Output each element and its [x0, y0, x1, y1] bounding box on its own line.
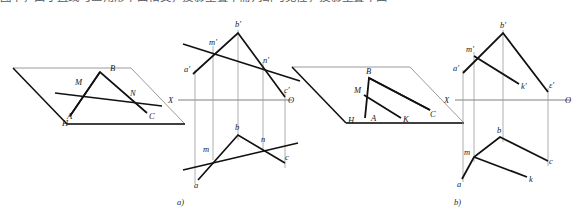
- label-n-prime-a: n': [263, 55, 269, 65]
- label-M-b: M: [353, 85, 362, 95]
- line-mn-lower-a: [183, 143, 298, 170]
- cropped-top-text-strip: 图中，由于直线与三角形平面相交，投影重叠中需判断可见性，投影重叠中面: [0, 0, 578, 9]
- axis-label-O-a: O: [288, 95, 294, 105]
- projection-b: X O a' m' b' k' ε' a: [443, 20, 571, 189]
- triangle-abc-lower-a: [198, 135, 285, 180]
- label-a-lower-b: a: [457, 179, 461, 189]
- label-b-lower-a: b: [235, 122, 239, 132]
- label-a-prime-a: a': [184, 64, 190, 74]
- label-b-lower-b: b: [497, 125, 501, 135]
- label-a-lower-a: a: [194, 180, 198, 190]
- triangle-abc-b: [365, 78, 430, 118]
- label-B-a: B: [110, 63, 115, 73]
- label-b-prime-b: b': [500, 20, 506, 30]
- line-mn-a: [55, 93, 162, 106]
- segment-mk-lower-b: [474, 157, 527, 177]
- axis-label-X-b: X: [443, 95, 450, 105]
- projection-connectors-b: [463, 30, 548, 182]
- projection-connectors-a: [195, 30, 285, 184]
- label-c-prime-b: ε': [549, 80, 554, 90]
- label-C-b: C: [430, 109, 436, 119]
- label-m-prime-b: m': [466, 44, 474, 54]
- label-c-lower-a: c: [285, 152, 289, 162]
- cropped-top-text: 图中，由于直线与三角形平面相交，投影重叠中需判断可见性，投影重叠中面: [0, 0, 388, 2]
- axis-label-X-a: X: [167, 95, 174, 105]
- axis-label-O-b: O: [565, 95, 571, 105]
- pictorial-plane-a: A B C M N H: [13, 63, 185, 128]
- label-n-lower-a: n: [261, 134, 265, 144]
- label-H-a: H: [61, 118, 69, 128]
- label-A-b: A: [370, 113, 377, 123]
- polyline-abc-upper-b: [463, 33, 548, 92]
- label-m-lower-b: m: [464, 147, 470, 157]
- label-c-lower-b: c: [549, 156, 553, 166]
- figure-root: 图中，由于直线与三角形平面相交，投影重叠中需判断可见性，投影重叠中面 A B C…: [0, 0, 578, 218]
- label-N-a: N: [129, 88, 137, 98]
- panel-a: A B C M N H X O: [13, 19, 300, 207]
- segment-mk-b: [364, 95, 401, 118]
- label-k-prime-b: k': [521, 81, 527, 91]
- projection-a: X O a' m' b' n' c': [167, 19, 300, 190]
- label-c-prime-a: c': [284, 85, 290, 95]
- label-B-b: B: [366, 66, 371, 76]
- pictorial-plane-b: A B C M K H: [292, 66, 464, 125]
- line-mn-upper-a: [183, 44, 300, 81]
- label-H-b: H: [347, 115, 355, 125]
- plane-edge-left-a: [13, 68, 67, 124]
- label-M-a: M: [74, 77, 83, 87]
- label-k-lower-b: k: [529, 174, 533, 184]
- segment-mk-upper-b: [474, 56, 519, 84]
- label-b-prime-a: b': [235, 19, 241, 29]
- triangle-abc-upper-a: [193, 33, 285, 97]
- label-a-prime-b: a': [453, 63, 459, 73]
- descriptive-geometry-figure: A B C M N H X O: [0, 0, 578, 218]
- caption-a: a): [177, 197, 184, 207]
- plane-outline-a: [13, 68, 185, 124]
- label-C-a: C: [149, 111, 155, 121]
- segment-bc-b: [369, 78, 430, 110]
- caption-b: b): [454, 197, 461, 207]
- plane-outline-b: [292, 67, 464, 123]
- label-m-prime-a: m': [209, 37, 217, 47]
- panel-b: A B C M K H X O: [292, 20, 571, 207]
- label-m-lower-a: m: [203, 144, 209, 154]
- plane-edge-left-b: [292, 67, 346, 123]
